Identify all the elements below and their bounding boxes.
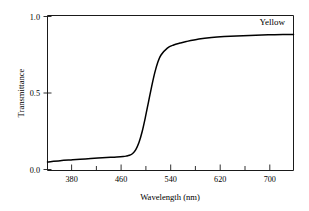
chart-plot-area: 1.0 0.5 0.0 380 460 540 620 700 Waveleng… <box>0 0 309 211</box>
x-tick-label-540: 540 <box>165 175 177 184</box>
x-tick-label-700: 700 <box>264 175 276 184</box>
x-tick-label-460: 460 <box>115 175 127 184</box>
y-axis-title: Transmittance <box>16 68 26 117</box>
x-tick-label-380: 380 <box>65 175 77 184</box>
plot-frame <box>48 16 294 171</box>
x-tick-label-620: 620 <box>214 175 226 184</box>
x-axis-title: Wavelength (nm) <box>140 192 200 202</box>
transmittance-curve <box>48 34 294 162</box>
x-axis-ticks <box>72 165 270 171</box>
y-tick-label-mid: 0.5 <box>30 89 40 98</box>
y-tick-label-bottom: 0.0 <box>30 166 40 175</box>
transmittance-chart-figure: 1.0 0.5 0.0 380 460 540 620 700 Waveleng… <box>0 0 309 211</box>
y-tick-label-top: 1.0 <box>30 13 40 22</box>
series-label-yellow: Yellow <box>259 17 285 27</box>
